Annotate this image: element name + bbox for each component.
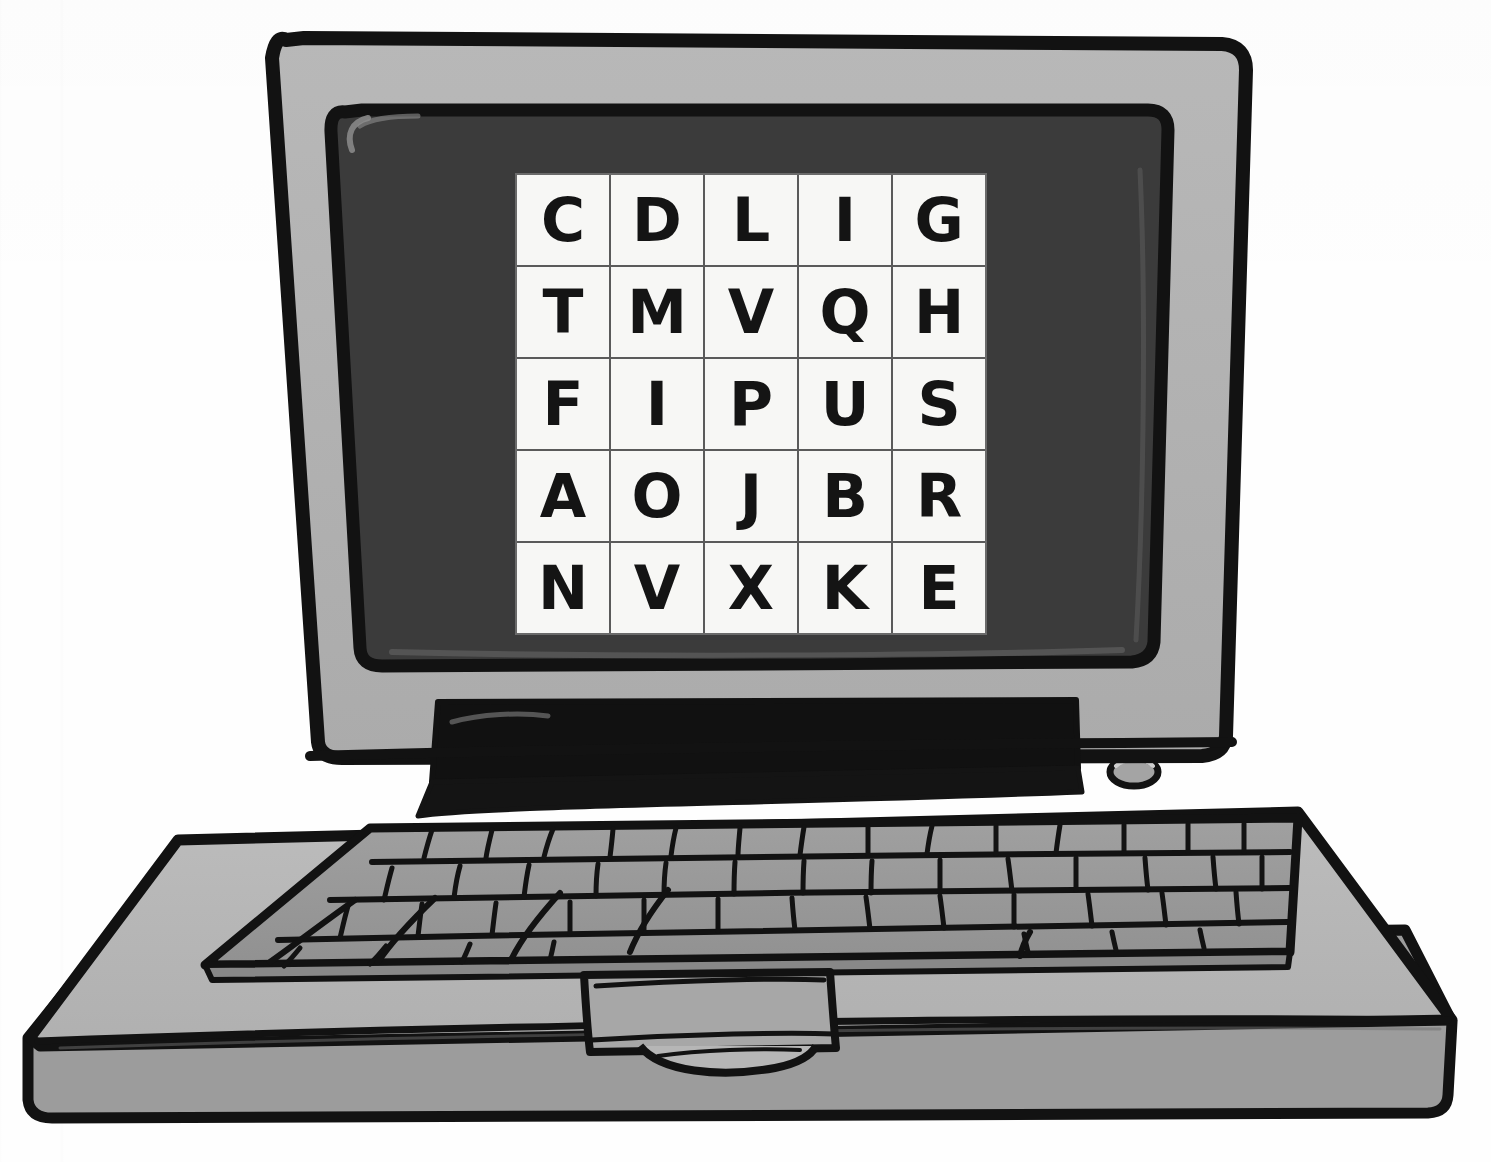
grid-cell[interactable]: F — [517, 359, 609, 449]
grid-cell[interactable]: R — [893, 451, 985, 541]
grid-cell[interactable]: O — [611, 451, 703, 541]
grid-cell[interactable]: U — [799, 359, 891, 449]
grid-cell[interactable]: H — [893, 267, 985, 357]
illustration-canvas: C D L I G T M V Q H F I P U S A O J B R … — [0, 0, 1491, 1162]
grid-cell[interactable]: T — [517, 267, 609, 357]
grid-cell[interactable]: A — [517, 451, 609, 541]
grid-cell[interactable]: M — [611, 267, 703, 357]
grid-cell[interactable]: K — [799, 543, 891, 633]
grid-cell[interactable]: D — [611, 175, 703, 265]
grid-cell[interactable]: V — [611, 543, 703, 633]
grid-cell[interactable]: I — [611, 359, 703, 449]
grid-cell[interactable]: S — [893, 359, 985, 449]
grid-cell[interactable]: J — [705, 451, 797, 541]
grid-cell[interactable]: P — [705, 359, 797, 449]
grid-cell[interactable]: X — [705, 543, 797, 633]
grid-cell[interactable]: G — [893, 175, 985, 265]
grid-cell[interactable]: I — [799, 175, 891, 265]
keyboard[interactable] — [205, 818, 1298, 980]
grid-cell[interactable]: C — [517, 175, 609, 265]
letter-grid-display[interactable]: C D L I G T M V Q H F I P U S A O J B R … — [517, 175, 985, 633]
grid-cell[interactable]: V — [705, 267, 797, 357]
grid-cell[interactable]: Q — [799, 267, 891, 357]
grid-cell[interactable]: N — [517, 543, 609, 633]
grid-cell[interactable]: L — [705, 175, 797, 265]
grid-cell[interactable]: E — [893, 543, 985, 633]
grid-cell[interactable]: B — [799, 451, 891, 541]
